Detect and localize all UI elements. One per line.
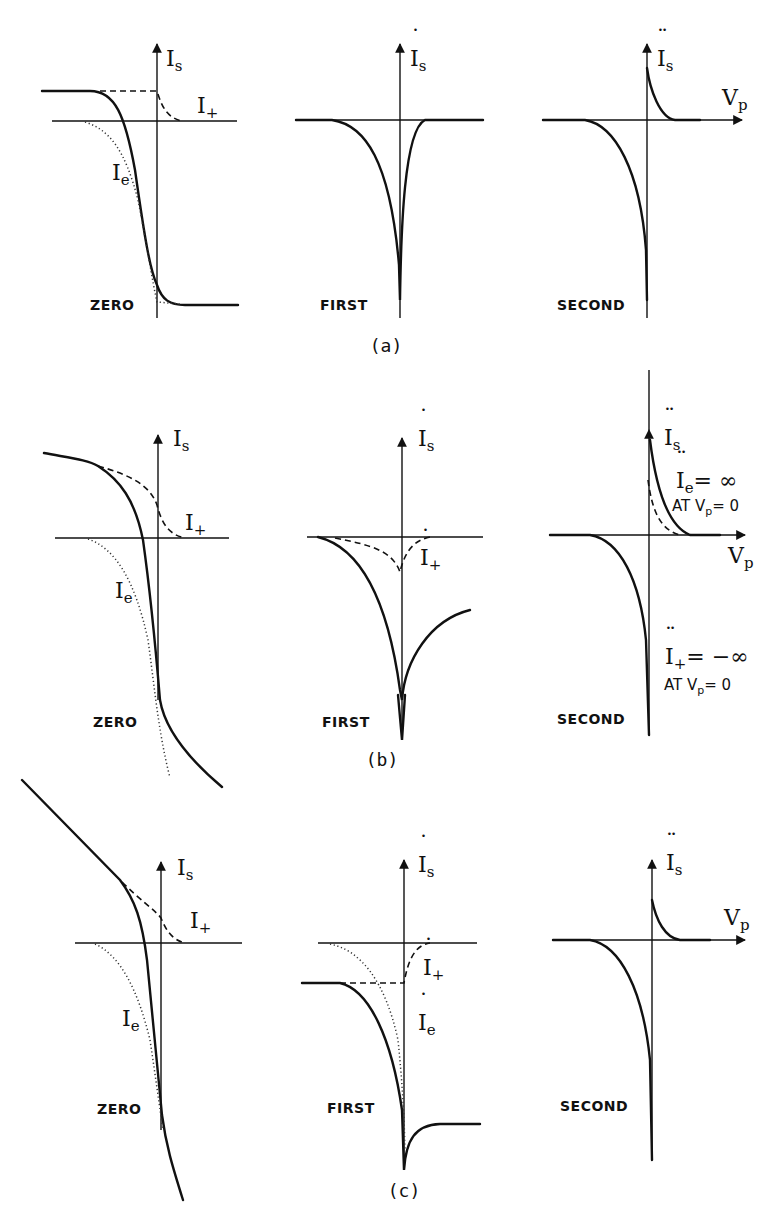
y-axis-label: Is bbox=[166, 46, 182, 75]
electron-note: AT Vp= 0 bbox=[672, 497, 739, 518]
ion-derivative-dots: ˙ bbox=[423, 935, 434, 960]
y-axis-label: Is bbox=[173, 426, 189, 455]
ion-current-label: I+ bbox=[185, 510, 206, 539]
panel-caption: (a) bbox=[370, 335, 403, 356]
panel-b-second-plot: Is ¨ Vp Ie= ∞ ¨ AT Vp= 0 I+= −∞ ¨ AT Vp=… bbox=[550, 370, 754, 735]
panel-a: Is I+ Ie ZERO Is ˙ FIRST Is ¨ Vp SECOND … bbox=[42, 26, 748, 356]
second-derivative-negative-branch bbox=[550, 535, 649, 735]
x-axis-label: Vp bbox=[721, 85, 748, 114]
y-axis-dots: ¨ bbox=[666, 830, 677, 855]
ion-second-derivative-dots: ¨ bbox=[665, 624, 676, 649]
panel-b-first-plot: Is ˙ I+ ˙ FIRST bbox=[307, 406, 483, 740]
order-label: FIRST bbox=[322, 714, 370, 730]
y-axis-dots: ¨ bbox=[664, 405, 675, 430]
order-label: ZERO bbox=[90, 297, 134, 313]
order-label: SECOND bbox=[560, 1098, 628, 1114]
electron-current-label: Ie bbox=[122, 1006, 140, 1035]
order-label: SECOND bbox=[557, 711, 625, 727]
y-axis-dots: ˙ bbox=[418, 406, 429, 431]
y-axis-label: Is bbox=[177, 855, 193, 884]
total-current-curve bbox=[44, 453, 222, 787]
panel-caption: (b) bbox=[366, 749, 399, 770]
y-axis-dots: ¨ bbox=[657, 26, 668, 51]
probe-characteristic-derivatives-figure: Is I+ Ie ZERO Is ˙ FIRST Is ¨ Vp SECOND … bbox=[0, 0, 772, 1225]
y-axis-dots: ˙ bbox=[410, 26, 421, 51]
ion-current-label: I+ bbox=[190, 908, 211, 937]
second-derivative-curve bbox=[543, 120, 647, 300]
ion-second-derivative-label: I+= −∞ bbox=[665, 644, 748, 673]
electron-second-derivative-dots: ¨ bbox=[676, 448, 687, 473]
panel-a-first-plot: Is ˙ FIRST bbox=[296, 26, 483, 318]
total-current-curve bbox=[22, 780, 183, 1200]
ion-note: AT Vp= 0 bbox=[664, 676, 731, 697]
panel-b: Is I+ Ie ZERO Is ˙ I+ ˙ FIRST Is bbox=[44, 370, 754, 787]
panel-caption: (c) bbox=[388, 1180, 421, 1201]
ion-first-derivative-curve bbox=[340, 943, 430, 983]
panel-b-zero-plot: Is I+ Ie ZERO bbox=[44, 426, 229, 787]
order-label: SECOND bbox=[557, 297, 625, 313]
panel-c-first-plot: Is ˙ I+ ˙ Ie ˙ FIRST bbox=[302, 832, 480, 1170]
order-label: FIRST bbox=[320, 297, 368, 313]
ion-derivative-dots: ˙ bbox=[420, 526, 431, 551]
first-derivative-curve bbox=[296, 120, 483, 300]
order-label: ZERO bbox=[97, 1101, 141, 1117]
ion-current-label: I+ bbox=[197, 93, 218, 122]
second-derivative-positive-branch bbox=[647, 68, 700, 120]
ion-current-curve bbox=[122, 882, 185, 943]
x-axis-label: Vp bbox=[727, 543, 754, 572]
total-first-derivative-curve bbox=[302, 983, 480, 1170]
second-derivative-positive-branch bbox=[652, 900, 710, 940]
order-label: ZERO bbox=[93, 714, 137, 730]
panel-c-second-plot: Is ¨ Vp SECOND bbox=[553, 830, 750, 1160]
panel-a-second-plot: Is ¨ Vp SECOND bbox=[543, 26, 748, 318]
electron-derivative-dots: ˙ bbox=[418, 990, 429, 1015]
x-axis-label: Vp bbox=[723, 905, 750, 934]
second-derivative-negative-branch bbox=[553, 940, 652, 1160]
electron-current-curve bbox=[85, 122, 180, 304]
total-current-curve bbox=[42, 91, 238, 305]
electron-first-derivative-curve bbox=[330, 944, 405, 1150]
panel-a-zero-plot: Is I+ Ie ZERO bbox=[42, 44, 238, 318]
order-label: FIRST bbox=[327, 1100, 375, 1116]
panel-c-zero-plot: Is I+ Ie ZERO bbox=[22, 780, 242, 1200]
panel-c: Is I+ Ie ZERO Is ˙ I+ ˙ Ie ˙ FIRST Is bbox=[22, 780, 750, 1201]
ion-current-curve bbox=[100, 91, 182, 121]
y-axis-dots: ˙ bbox=[418, 832, 429, 857]
